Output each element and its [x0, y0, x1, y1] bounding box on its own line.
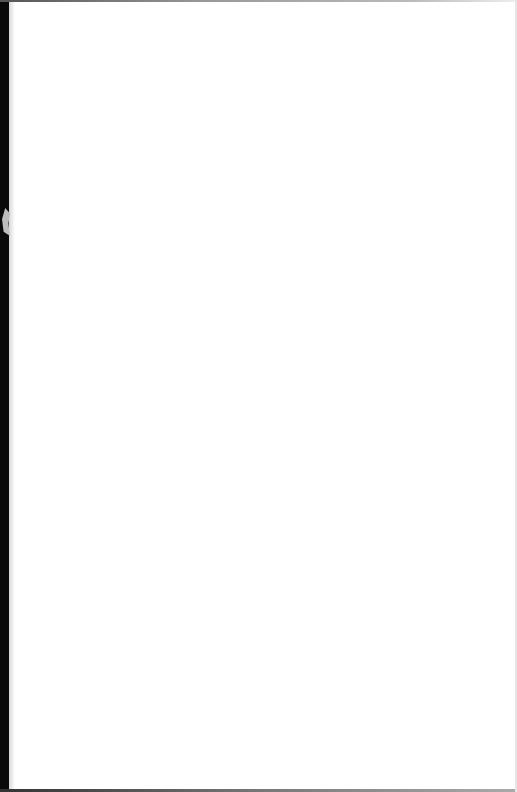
binding-edge-shadow: [0, 0, 9, 792]
blank-page-area: [15, 2, 515, 789]
